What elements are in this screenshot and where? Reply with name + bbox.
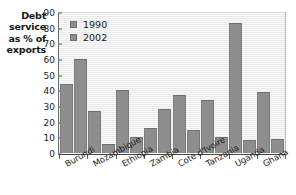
x-axis-labels: BurundiMozambiqueEthiopiaZambiaCote d'Iv…	[58, 156, 286, 195]
bar-chart: Debt service as % of exports 01020304050…	[0, 0, 296, 195]
y-axis-tick-label: 10	[44, 133, 59, 143]
legend-item: 1990	[70, 18, 107, 31]
y-axis-tick-label: 30	[44, 102, 59, 112]
bar-group	[117, 14, 145, 153]
bar	[158, 109, 171, 153]
bar	[60, 84, 73, 153]
legend-item: 2002	[70, 31, 107, 44]
bar-group	[201, 14, 229, 153]
legend-swatch-icon	[70, 21, 77, 28]
legend-label: 2002	[83, 33, 107, 43]
legend: 19902002	[70, 18, 107, 44]
bar	[74, 59, 87, 153]
bar-group	[258, 14, 286, 153]
y-axis-tick-label: 20	[44, 118, 59, 128]
y-axis-tick-label: 40	[44, 86, 59, 96]
y-axis-tick-label: 70	[44, 39, 59, 49]
y-axis-title-line-4: exports	[0, 44, 46, 55]
y-axis-title-line-3: as % of	[0, 33, 46, 44]
y-axis-title-line-1: Debt	[0, 10, 46, 21]
bar	[229, 23, 242, 153]
y-axis-tick-label: 90	[44, 8, 59, 18]
bar-group	[145, 14, 173, 153]
y-axis-title-line-2: service	[0, 21, 46, 32]
bar-group	[230, 14, 258, 153]
legend-swatch-icon	[70, 34, 77, 41]
y-axis-tick-label: 80	[44, 24, 59, 34]
y-axis-title: Debt service as % of exports	[0, 10, 46, 56]
bar	[257, 92, 270, 153]
legend-label: 1990	[83, 20, 107, 30]
y-axis-tick-label: 60	[44, 55, 59, 65]
y-axis-tick-label: 50	[44, 71, 59, 81]
bar-group	[173, 14, 201, 153]
